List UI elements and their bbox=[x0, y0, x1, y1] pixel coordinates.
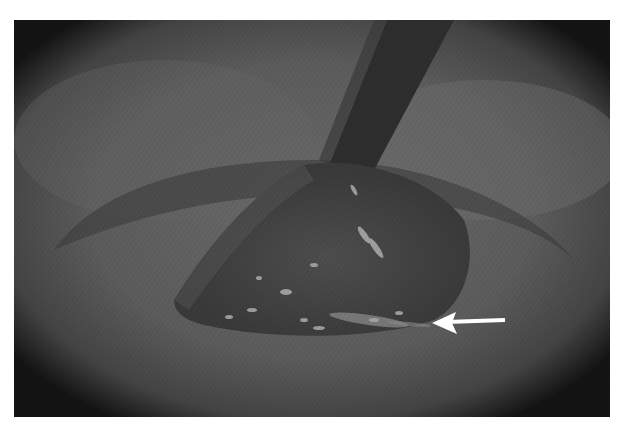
photo-scene bbox=[14, 20, 610, 417]
endoscopic-photo bbox=[14, 20, 610, 417]
